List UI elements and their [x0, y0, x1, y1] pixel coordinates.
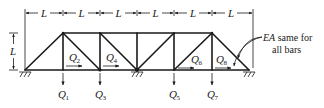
dim-panel-5: L — [175, 7, 211, 19]
diagonal-4 — [137, 33, 174, 70]
dim-panel-6: L — [213, 7, 252, 19]
load-Q1: Q 1 — [58, 73, 70, 102]
truss-diagram: L L L L L L — [0, 0, 324, 108]
svg-text:2: 2 — [77, 57, 81, 65]
leader-line — [234, 37, 262, 66]
svg-text:5: 5 — [177, 94, 181, 102]
load-Q4: Q 4 — [103, 51, 119, 66]
ea-note-line1: EA same for — [262, 32, 313, 43]
pin-support-left — [19, 72, 31, 77]
svg-text:1: 1 — [66, 94, 70, 102]
load-Q2: Q 2 — [66, 51, 82, 66]
dim-label: L — [40, 7, 47, 19]
dim-label: L — [227, 7, 234, 19]
svg-text:8: 8 — [224, 59, 228, 67]
svg-text:4: 4 — [114, 57, 118, 65]
dim-panel-2: L — [64, 7, 99, 19]
end-diagonal-left — [25, 33, 63, 70]
height-label: L — [9, 45, 16, 57]
load-Q6: Q 6 — [178, 53, 203, 68]
vertical-dimension: L — [9, 33, 18, 70]
svg-text:7: 7 — [215, 94, 219, 102]
load-Q7: Q 7 — [207, 73, 219, 102]
dim-label: L — [152, 7, 159, 19]
dim-label: L — [115, 7, 122, 19]
pin-support-middle — [131, 72, 143, 77]
dim-panel-3: L — [101, 7, 136, 19]
svg-text:6: 6 — [199, 59, 203, 67]
dim-panel-1: L — [26, 7, 62, 19]
load-Q5: Q 5 — [169, 73, 181, 102]
ea-note-line2: all bars — [272, 44, 301, 55]
load-Q3: Q 3 — [95, 73, 107, 102]
leader-line — [238, 37, 262, 58]
dim-label: L — [78, 7, 85, 19]
pin-support-right — [243, 72, 255, 77]
dim-panel-4: L — [138, 7, 173, 19]
dim-label: L — [189, 7, 196, 19]
load-Q8: Q 8 — [215, 53, 231, 68]
ea-note: EA same for all bars — [234, 32, 313, 66]
truss-members — [25, 32, 249, 72]
svg-text:3: 3 — [103, 94, 107, 102]
